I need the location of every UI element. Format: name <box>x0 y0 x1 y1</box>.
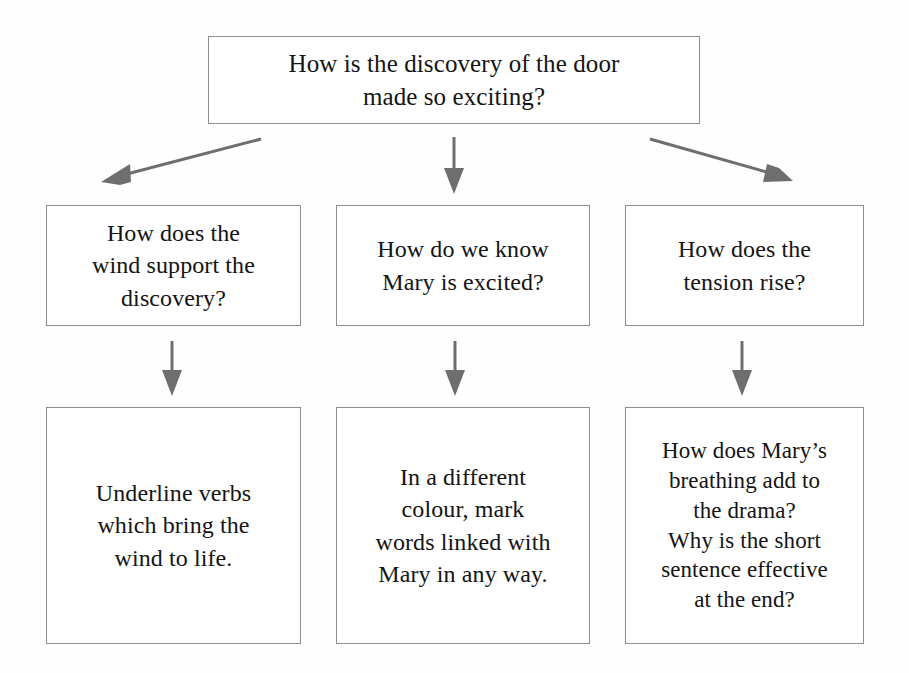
arrow-branch-2-to-task <box>732 341 752 396</box>
branch-question-text-2: How does the tension rise? <box>626 233 863 297</box>
branch-question-box-0[interactable]: How does the wind support the discovery? <box>46 205 301 326</box>
arrow-root-to-branch-0 <box>101 139 261 185</box>
branch-question-box-2[interactable]: How does the tension rise? <box>625 205 864 326</box>
branch-question-text-1: How do we know Mary is excited? <box>337 233 589 297</box>
arrow-root-to-branch-2 <box>650 139 793 182</box>
arrow-branch-0-to-task <box>162 341 182 396</box>
branch-question-box-1[interactable]: How do we know Mary is excited? <box>336 205 590 326</box>
branch-task-text-2: How does Mary’s breathing add to the dra… <box>626 436 863 615</box>
branch-question-text-0: How does the wind support the discovery? <box>47 217 300 313</box>
root-question-box[interactable]: How is the discovery of the door made so… <box>208 36 700 124</box>
branch-task-box-2[interactable]: How does Mary’s breathing add to the dra… <box>625 407 864 644</box>
branch-task-text-0: Underline verbs which bring the wind to … <box>47 477 300 573</box>
branch-task-box-0[interactable]: Underline verbs which bring the wind to … <box>46 407 301 644</box>
root-question-text: How is the discovery of the door made so… <box>209 47 699 114</box>
flowchart-canvas: How is the discovery of the door made so… <box>0 0 909 673</box>
arrow-root-to-branch-1 <box>444 137 464 194</box>
branch-task-text-1: In a different colour, mark words linked… <box>337 461 589 590</box>
branch-task-box-1[interactable]: In a different colour, mark words linked… <box>336 407 590 644</box>
arrow-branch-1-to-task <box>445 341 465 396</box>
